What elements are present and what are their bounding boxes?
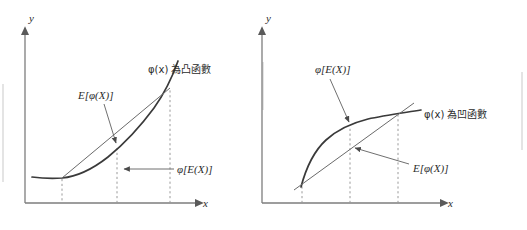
concave-curve xyxy=(301,110,421,187)
right-panel-dashed-guides xyxy=(302,115,398,203)
right-panel-y-axis-label: y xyxy=(265,12,271,24)
right-curve-point-label: φ[E(X)] xyxy=(315,63,350,76)
figure-canvas: y x E[φ(X)] φ[E(X)] φ(x) 為凸函 xyxy=(0,0,527,230)
convex-curve xyxy=(32,61,178,178)
right-panel: y x φ[E(X)] E[φ(X)] φ(x) 為凹函 xyxy=(262,12,488,209)
left-curve-point-label: φ[E(X)] xyxy=(177,163,212,176)
convex-chord xyxy=(62,88,170,178)
concave-chord xyxy=(294,103,414,190)
left-curve-caption: φ(x) 為凸函數 xyxy=(148,63,212,75)
right-panel-x-axis-label: x xyxy=(447,197,453,209)
left-panel-x-axis-label: x xyxy=(202,197,208,209)
right-chord-point-leader xyxy=(355,148,409,164)
left-panel-y-axis-label: y xyxy=(28,12,34,24)
left-panel: y x E[φ(X)] φ[E(X)] φ(x) 為凸函 xyxy=(25,12,212,209)
left-chord-point-label: E[φ(X)] xyxy=(77,89,113,102)
right-curve-caption: φ(x) 為凹函數 xyxy=(424,108,488,120)
jensens-inequality-figure: y x E[φ(X)] φ[E(X)] φ(x) 為凸函 xyxy=(0,0,527,230)
right-curve-point-leader xyxy=(330,79,349,122)
right-chord-point-label: E[φ(X)] xyxy=(412,162,448,175)
left-chord-point-leader xyxy=(104,104,116,143)
left-panel-dashed-guides xyxy=(62,88,170,203)
